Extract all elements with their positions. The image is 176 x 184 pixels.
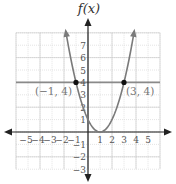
y-tick-label: 4 <box>80 78 86 88</box>
x-axis-left-arrow-icon <box>4 129 12 136</box>
y-tick-label: 6 <box>80 53 86 63</box>
point-marker <box>121 80 126 85</box>
point-label: (−1, 4) <box>35 85 72 97</box>
y-axis-up-arrow-icon <box>85 18 92 26</box>
x-axis-right-arrow-icon <box>164 129 172 136</box>
point-marker <box>73 80 78 85</box>
x-tick-label: 1 <box>97 135 103 145</box>
function-graph: −5−4−3−2−112345−3−2−11234567 (−1, 4)(3, … <box>0 0 176 184</box>
y-tick-label: 7 <box>80 41 86 51</box>
axes <box>4 18 172 182</box>
y-axis-down-arrow-icon <box>85 174 92 182</box>
y-tick-label: −2 <box>73 152 86 162</box>
x-tick-label: 5 <box>145 135 151 145</box>
x-tick-label: 4 <box>133 135 139 145</box>
point-label: (3, 4) <box>126 85 154 97</box>
x-tick-label: 3 <box>121 135 127 145</box>
y-axis-label: f(x) <box>77 1 100 16</box>
y-tick-label: −3 <box>73 165 87 175</box>
y-tick-label: −1 <box>73 140 86 150</box>
y-tick-label: 1 <box>80 115 86 125</box>
x-tick-label: 2 <box>109 135 115 145</box>
y-tick-label: 5 <box>80 66 86 76</box>
tick-labels: −5−4−3−2−112345−3−2−11234567 <box>19 41 151 175</box>
